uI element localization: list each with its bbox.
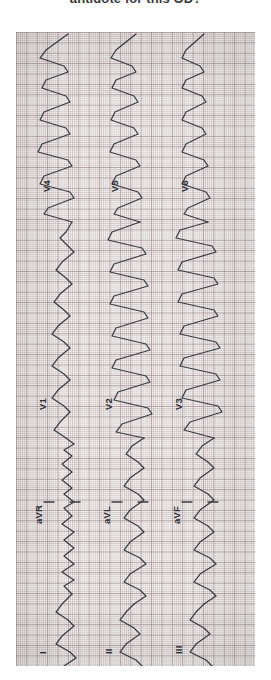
ecg-trace-v2 xyxy=(108,222,152,438)
lead-label-v5: V5 xyxy=(109,179,120,192)
ecg-trace-avf xyxy=(194,438,216,604)
question-text: antidote for this OD? xyxy=(0,0,271,6)
ecg-trace-avl xyxy=(124,438,146,604)
lead-label-v4: V4 xyxy=(41,179,52,192)
lead-label-avf: aVF xyxy=(171,506,182,524)
lead-label-v2: V2 xyxy=(103,398,114,410)
ecg-trace-v1 xyxy=(52,222,74,438)
ecg-trace-v6 xyxy=(182,34,210,222)
question-banner: antidote for this OD? xyxy=(0,0,271,14)
ecg-trace-i xyxy=(56,594,76,666)
ecg-traces: V4 V5 V6 V1 V2 V3 aVR aVL aVF I II xyxy=(16,32,255,666)
lead-label-avl: aVL xyxy=(101,506,112,524)
lead-label-ii: II xyxy=(103,648,114,654)
lead-label-v3: V3 xyxy=(173,398,184,410)
lead-label-iii: III xyxy=(173,645,184,654)
ecg-trace-v5 xyxy=(110,34,142,222)
ecg-photograph: V4 V5 V6 V1 V2 V3 aVR aVL aVF I II xyxy=(16,32,255,666)
ecg-trace-avr xyxy=(62,438,74,594)
ecg-trace-ii xyxy=(120,604,142,666)
ecg-trace-v4 xyxy=(38,34,74,222)
lead-label-i: I xyxy=(37,651,48,654)
ecg-trace-iii xyxy=(190,604,212,666)
lead-label-avr: aVR xyxy=(33,505,44,524)
lead-label-v1: V1 xyxy=(37,397,48,410)
lead-label-v6: V6 xyxy=(179,180,190,192)
